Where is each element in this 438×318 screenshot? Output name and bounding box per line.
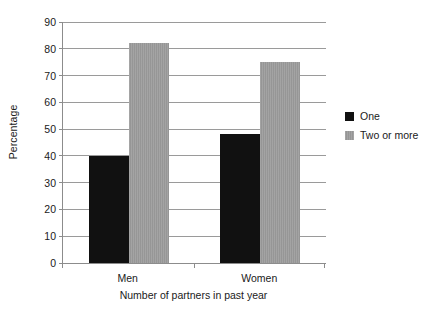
y-tick-label: 40 bbox=[28, 151, 56, 161]
bar-women-two-or-more bbox=[260, 62, 300, 263]
y-tick-label: 0 bbox=[28, 258, 56, 268]
y-axis-title-text: Percentage bbox=[7, 104, 19, 159]
x-axis-end-tick bbox=[62, 263, 63, 268]
y-tick-label: 30 bbox=[28, 178, 56, 188]
bar-chart-figure: Percentage 9080706050403020100 MenWomen … bbox=[0, 0, 438, 318]
x-tick-label-men: Men bbox=[78, 272, 178, 284]
y-tick-label: 80 bbox=[28, 44, 56, 54]
legend-label: Two or more bbox=[360, 130, 418, 141]
legend-item-one[interactable]: One bbox=[345, 110, 438, 122]
y-tick-label: 50 bbox=[28, 124, 56, 134]
chart-legend: OneTwo or more bbox=[345, 110, 438, 148]
plot-area bbox=[62, 22, 326, 263]
y-tick-label: 90 bbox=[28, 17, 56, 27]
legend-label: One bbox=[360, 111, 380, 122]
x-axis-end-tick bbox=[324, 263, 325, 268]
bar-men-one bbox=[89, 156, 129, 263]
bar-men-two-or-more bbox=[129, 43, 169, 263]
y-tick-label: 20 bbox=[28, 204, 56, 214]
bar-group-container bbox=[63, 22, 326, 263]
y-tick-label: 10 bbox=[28, 231, 56, 241]
y-axis-tick-labels: 9080706050403020100 bbox=[26, 0, 56, 318]
y-tick-label: 70 bbox=[28, 71, 56, 81]
y-tick-label: 60 bbox=[28, 97, 56, 107]
x-tick-label-women: Women bbox=[209, 272, 309, 284]
bar-women-one bbox=[220, 134, 260, 263]
legend-item-two-or-more[interactable]: Two or more bbox=[345, 129, 438, 141]
y-axis-title: Percentage bbox=[0, 0, 26, 263]
x-axis-title: Number of partners in past year bbox=[62, 289, 325, 301]
legend-swatch-icon bbox=[345, 112, 354, 121]
x-axis: MenWomen Number of partners in past year bbox=[62, 263, 325, 318]
x-group-separator bbox=[194, 263, 195, 268]
legend-swatch-icon bbox=[345, 131, 354, 140]
